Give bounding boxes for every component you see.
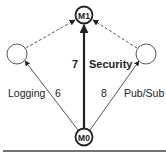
edge-right-to-m1 bbox=[93, 20, 137, 48]
logging-label: Logging bbox=[8, 87, 46, 99]
node-m1-label: M1 bbox=[78, 11, 90, 21]
pubsub-weight-label: 8 bbox=[101, 87, 107, 99]
logging-weight-label: 6 bbox=[55, 87, 61, 99]
security-weight-label: 7 bbox=[72, 58, 78, 70]
node-m0-label: M0 bbox=[78, 133, 90, 143]
security-label: Security bbox=[89, 58, 133, 70]
node-right bbox=[136, 44, 156, 64]
pubsub-label: Pub/Sub bbox=[124, 87, 164, 99]
node-left bbox=[7, 44, 27, 64]
edge-left-to-m1 bbox=[26, 20, 75, 48]
network-diagram: M1 M0 7 Security Logging 6 8 Pub/Sub bbox=[0, 0, 166, 157]
